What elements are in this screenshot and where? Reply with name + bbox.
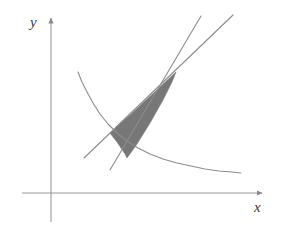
y-axis-label: y (28, 14, 37, 30)
shallower-line (84, 15, 233, 158)
figure-canvas: y x (0, 0, 283, 232)
steeper-line (110, 16, 201, 170)
x-axis-label: x (253, 199, 261, 215)
math-figure: y x (0, 0, 283, 232)
